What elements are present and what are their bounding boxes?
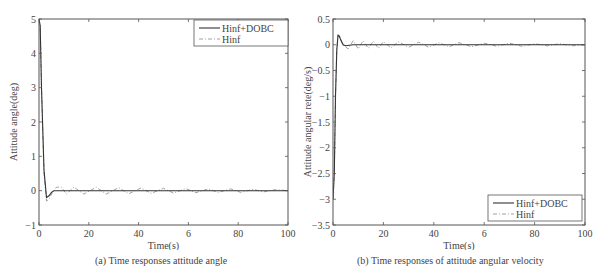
caption-a: (a) Time responses attitude angle [95,255,227,266]
legend: Hinf+DOBCHinf [194,20,288,46]
x-tick-label: 80 [530,228,540,239]
y-tick-label: 0.5 [318,14,331,25]
legend-entry: Hinf+DOBC [516,198,568,209]
plot-frame [39,19,288,225]
y-tick-label: 1 [31,151,36,162]
chart-angular-velocity: 02040680100−3.5−3−2.5−2−1.5−1−0.500.5Tim… [300,0,607,250]
chart-attitude-angle: 02040680100−1012345Time(s)Attitude angle… [0,0,300,250]
x-tick-label: 20 [84,228,94,239]
y-axis-label: Attitude angular rete(deg/s) [302,67,314,178]
y-tick-label: 2 [31,117,36,128]
y-tick-label: −1.5 [312,117,330,128]
figure-a: 02040680100−1012345Time(s)Attitude angle… [0,0,300,254]
x-tick-label: 6 [186,228,191,239]
plot-frame [333,19,585,225]
x-tick-label: 80 [233,228,243,239]
x-tick-label: 6 [482,228,487,239]
caption-b: (b) Time responses of attitude angular v… [357,255,544,266]
x-tick-label: 0 [37,228,42,239]
y-tick-label: −3.5 [312,220,330,231]
y-tick-label: 0 [325,39,330,50]
legend-entry: Hinf [516,209,535,220]
x-tick-label: 40 [134,228,144,239]
y-tick-label: 5 [31,14,36,25]
legend-entry: Hinf+DOBC [222,23,274,34]
y-tick-label: −1 [25,220,36,231]
y-tick-label: −2 [319,142,330,153]
x-axis-label: Time(s) [443,240,474,250]
legend: Hinf+DOBCHinf [488,195,582,221]
y-tick-label: −2.5 [312,168,330,179]
y-tick-label: 4 [31,48,36,59]
series-hinf-dobc [333,36,585,200]
y-tick-label: −0.5 [312,65,330,76]
y-tick-label: 0 [31,185,36,196]
y-tick-label: −1 [319,91,330,102]
x-tick-label: 20 [378,228,388,239]
y-tick-label: −3 [319,194,330,205]
legend-entry: Hinf [222,34,241,45]
x-tick-label: 0 [331,228,336,239]
x-tick-label: 100 [281,228,296,239]
figure-b: 02040680100−3.5−3−2.5−2−1.5−1−0.500.5Tim… [300,0,607,254]
x-tick-label: 40 [429,228,439,239]
x-axis-label: Time(s) [148,240,179,250]
x-tick-label: 100 [578,228,593,239]
y-axis-label: Attitude angle(deg) [8,83,20,161]
series-hinf [333,34,585,199]
y-tick-label: 3 [31,82,36,93]
